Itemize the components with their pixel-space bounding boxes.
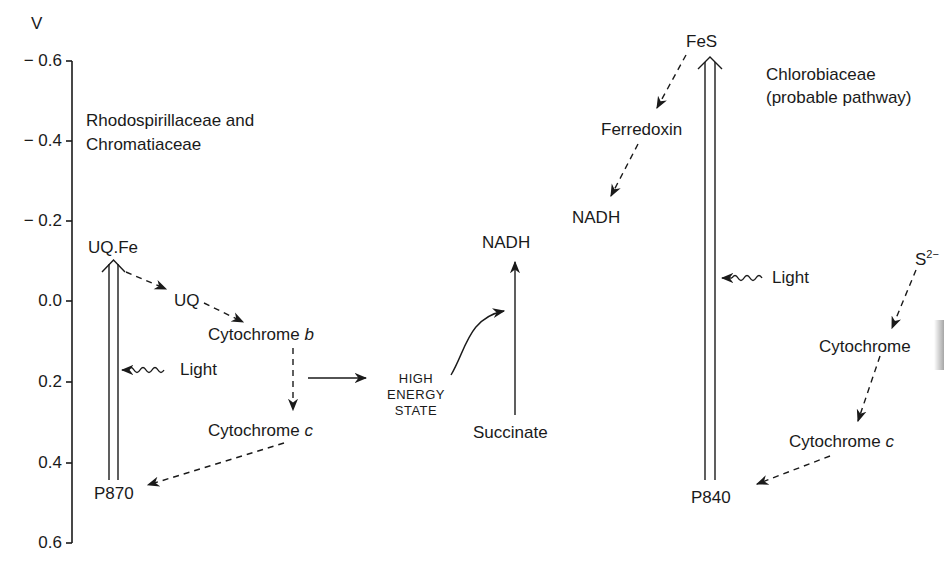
left-light-label: Light [180, 360, 217, 380]
cytochrome-b-suffix: b [304, 325, 313, 344]
node-nadh-middle: NADH [482, 233, 530, 253]
node-uq-fe: UQ.Fe [88, 238, 138, 258]
node-succinate: Succinate [473, 423, 548, 443]
tick-minus-0.2: − 0.2 [2, 211, 62, 231]
p870-excitation-arrow [102, 260, 125, 480]
left-panel-title-line1: Rhodospirillaceae and [86, 111, 254, 131]
node-uq: UQ [174, 291, 200, 311]
cytochrome-c-prefix: Cytochrome [208, 421, 304, 440]
node-fes: FeS [686, 32, 717, 52]
node-cytochrome-right-top: Cytochrome [819, 337, 911, 357]
node-nadh-right: NADH [572, 208, 620, 228]
cytochrome-b-prefix: Cytochrome [208, 325, 304, 344]
right-light-wavy-arrow [722, 276, 762, 281]
right-panel-title-line2: (probable pathway) [766, 88, 912, 108]
node-p870: P870 [94, 484, 134, 504]
node-cytochrome-c-left: Cytochrome c [208, 421, 313, 441]
tick-minus-0.4: − 0.4 [2, 131, 62, 151]
sulfide-base: S [915, 250, 926, 269]
cytochrome-c-right-suffix: c [885, 432, 894, 451]
high-energy-line3: STATE [376, 403, 456, 419]
tick-0.4: 0.4 [2, 453, 62, 473]
tick-0.2: 0.2 [2, 372, 62, 392]
left-light-wavy-arrow [122, 368, 164, 373]
node-cytochrome-b: Cytochrome b [208, 325, 314, 345]
high-energy-state: HIGH ENERGY STATE [376, 371, 456, 419]
node-sulfide: S2− [915, 244, 939, 270]
tick-minus-0.6: − 0.6 [2, 51, 62, 71]
high-energy-line2: ENERGY [376, 387, 456, 403]
energy-curved-arrow [451, 311, 504, 375]
node-p840: P840 [691, 488, 731, 508]
right-panel-title-line1: Chlorobiaceae [766, 65, 876, 85]
p840-excitation-arrow [698, 57, 722, 480]
cytochrome-c-right-prefix: Cytochrome [789, 432, 885, 451]
left-panel-title-line2: Chromatiaceae [86, 135, 201, 155]
tick-0.0: 0.0 [2, 291, 62, 311]
axis-unit-label: V [31, 14, 42, 34]
tick-0.6: 0.6 [2, 533, 62, 553]
cytochrome-c-suffix: c [304, 421, 313, 440]
electron-transport-diagram: V − 0.6 − 0.4 − 0.2 0.0 0.2 0.4 0.6 Rhod… [0, 0, 944, 570]
high-energy-line1: HIGH [376, 371, 456, 387]
sulfide-charge: 2− [926, 248, 939, 260]
node-ferredoxin: Ferredoxin [601, 120, 682, 140]
right-light-label: Light [772, 268, 809, 288]
page-edge-shadow [934, 320, 944, 370]
node-cytochrome-c-right: Cytochrome c [789, 432, 894, 452]
y-axis [66, 61, 72, 543]
